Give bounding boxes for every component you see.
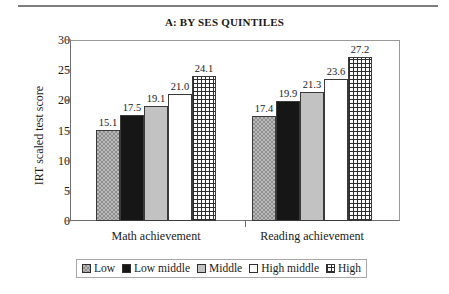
- bar-value-label: 17.4: [255, 103, 273, 114]
- bar-value-label: 27.2: [351, 44, 369, 55]
- legend-label: Low middle: [134, 263, 190, 275]
- bar: [96, 130, 120, 221]
- bar: [120, 115, 144, 221]
- legend-item: Low: [82, 263, 115, 275]
- legend-item: Middle: [197, 263, 242, 275]
- legend-swatch-icon: [197, 264, 206, 273]
- bar-value-label: 19.9: [279, 88, 297, 99]
- legend-label: Middle: [209, 263, 242, 275]
- legend-item: Low middle: [122, 263, 190, 275]
- bar-value-label: 21.0: [171, 81, 189, 92]
- chart-legend: LowLow middleMiddleHigh middleHigh: [76, 259, 367, 278]
- legend-item: High: [326, 263, 361, 275]
- x-category-label: Math achievement: [112, 229, 201, 244]
- legend-swatch-icon: [249, 264, 258, 273]
- bar: [144, 106, 168, 221]
- chart-title: A: BY SES QUINTILES: [0, 16, 449, 28]
- legend-label: High middle: [261, 263, 319, 275]
- legend-label: Low: [94, 263, 115, 275]
- bar: [168, 94, 192, 221]
- legend-swatch-icon: [122, 264, 131, 273]
- bar-value-label: 17.5: [123, 102, 141, 113]
- bar-value-label: 24.1: [195, 63, 213, 74]
- bar: [276, 101, 300, 221]
- bar-value-label: 19.1: [147, 93, 165, 104]
- bar: [324, 79, 348, 221]
- bar: [192, 76, 216, 221]
- legend-swatch-icon: [82, 264, 91, 273]
- x-category-label: Reading achievement: [260, 229, 364, 244]
- y-axis-ticks: 051015202530: [36, 40, 70, 221]
- bar: [348, 57, 372, 221]
- legend-item: High middle: [249, 263, 319, 275]
- legend-label: High: [338, 263, 361, 275]
- x-group-separator-tick: [245, 221, 246, 227]
- bar: [300, 92, 324, 221]
- legend-swatch-icon: [326, 264, 335, 273]
- bar-value-label: 23.6: [327, 66, 345, 77]
- bar-value-label: 21.3: [303, 79, 321, 90]
- bar-value-label: 15.1: [99, 117, 117, 128]
- bar: [252, 116, 276, 221]
- top-horizontal-rule: [18, 5, 438, 7]
